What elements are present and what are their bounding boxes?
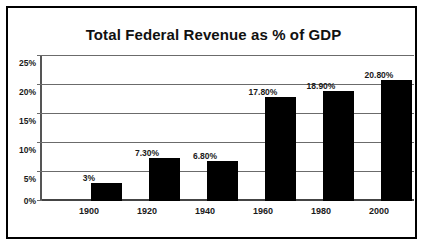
bar-1960[interactable] — [265, 97, 296, 201]
x-axis-label-1960: 1960 — [231, 206, 295, 216]
bar-1920[interactable] — [149, 158, 180, 201]
chart-title: Total Federal Revenue as % of GDP — [8, 26, 419, 43]
y-tick-10 — [37, 142, 42, 143]
y-tick-0 — [37, 200, 42, 201]
y-axis-label-15: 15% — [8, 116, 36, 126]
gridline-15 — [42, 113, 414, 114]
chart-figure: Total Federal Revenue as % of GDP 25% 20… — [0, 0, 424, 250]
x-axis-label-1920: 1920 — [115, 206, 179, 216]
x-axis-label-2000: 2000 — [347, 206, 411, 216]
y-tick-25 — [37, 55, 42, 56]
x-axis-label-1980: 1980 — [289, 206, 353, 216]
bar-value-1980: 18.90% — [289, 81, 353, 91]
y-axis-label-20: 20% — [8, 87, 36, 97]
x-axis-label-1900: 1900 — [57, 206, 121, 216]
x-axis-label-1940: 1940 — [173, 206, 237, 216]
y-tick-5 — [37, 171, 42, 172]
y-tick-20 — [37, 84, 42, 85]
bar-value-1920: 7.30% — [115, 148, 179, 158]
bar-value-1900: 3% — [57, 173, 121, 183]
bar-1940[interactable] — [207, 161, 238, 201]
y-axis-label-0: 0% — [8, 196, 36, 206]
bar-1900[interactable] — [91, 183, 122, 201]
bar-2000[interactable] — [381, 80, 412, 201]
chart-frame: Total Federal Revenue as % of GDP 25% 20… — [6, 6, 417, 239]
y-axis-label-25: 25% — [8, 58, 36, 68]
y-tick-15 — [37, 113, 42, 114]
gridline-25 — [42, 55, 414, 56]
bar-1980[interactable] — [323, 91, 354, 201]
gridline-10 — [42, 142, 414, 143]
bar-value-1940: 6.80% — [173, 151, 237, 161]
bar-value-2000: 20.80% — [347, 70, 411, 80]
gridline-20 — [42, 84, 414, 85]
y-axis-label-5: 5% — [8, 174, 36, 184]
y-axis-label-10: 10% — [8, 145, 36, 155]
bar-value-1960: 17.80% — [231, 87, 295, 97]
